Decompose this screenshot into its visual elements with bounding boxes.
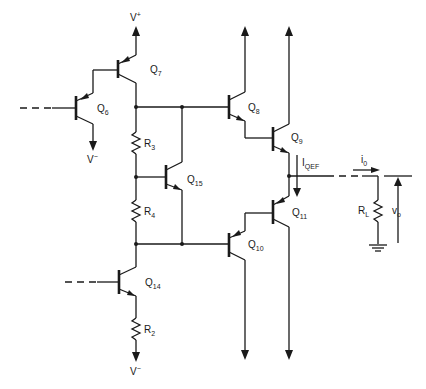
vminus-arrow-icon bbox=[89, 141, 97, 151]
transistor-q15 bbox=[166, 162, 182, 190]
vplus-arrow-icon bbox=[132, 26, 140, 36]
q8-label: Q8 bbox=[248, 102, 260, 115]
r4-label: R4 bbox=[144, 206, 155, 219]
q14-label: Q14 bbox=[145, 277, 161, 290]
circuit-diagram: V+ Q7 V− Q6 bbox=[0, 0, 426, 389]
q6-label: Q6 bbox=[97, 103, 109, 116]
vo-label: vo bbox=[392, 205, 401, 218]
q11-label: Q11 bbox=[292, 207, 307, 220]
transistor-q9 bbox=[273, 26, 293, 196]
vminus-arrow-icon bbox=[132, 352, 140, 362]
q9-label: Q9 bbox=[291, 132, 303, 145]
vo-arrow-icon bbox=[384, 176, 412, 243]
bias-network bbox=[132, 105, 229, 267]
q10-label: Q10 bbox=[248, 239, 264, 252]
q15-label: Q15 bbox=[187, 174, 203, 187]
transistor-q7 bbox=[118, 34, 136, 107]
rl-label: RL bbox=[358, 205, 369, 218]
vminus-r2-label: V− bbox=[130, 365, 141, 377]
r3-label: R3 bbox=[144, 138, 155, 151]
transistor-q11 bbox=[273, 196, 293, 360]
transistor-q8 bbox=[229, 26, 273, 138]
i0-arrow-icon bbox=[353, 167, 380, 173]
q7-label: Q7 bbox=[150, 64, 162, 77]
r2-label: R2 bbox=[144, 324, 155, 337]
i0-label: i0 bbox=[361, 154, 367, 167]
ground-icon bbox=[369, 245, 387, 251]
transistor-q10 bbox=[229, 213, 273, 360]
output-network bbox=[287, 174, 382, 244]
vminus-q6-label: V− bbox=[87, 153, 98, 165]
iqef-label: IQEF bbox=[302, 157, 319, 171]
vplus-label: V+ bbox=[130, 11, 141, 23]
transistor-q14 bbox=[65, 267, 140, 354]
